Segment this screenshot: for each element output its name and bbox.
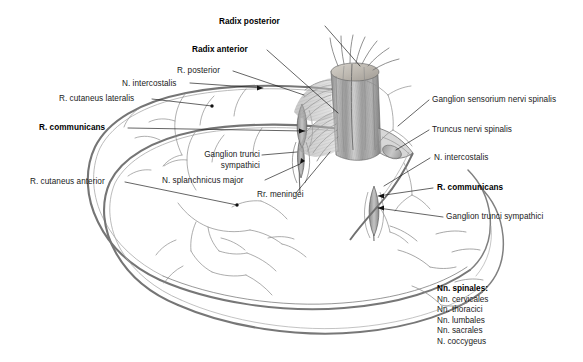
label-n-intercostalis-left: N. intercostalis <box>122 79 177 90</box>
label-ganglion-sensorium-nervi-spinalis: Ganglion sensorium nervi spinalis <box>432 95 556 106</box>
label-ganglion-trunci-sympathici-mid-line1: Ganglion trunci <box>204 150 260 159</box>
label-ganglion-trunci-sympathici-mid: Ganglion trunci sympathici <box>176 150 260 171</box>
label-rr-meningei: Rr. meningei <box>257 190 304 201</box>
legend-item-nn-thoracici: Nn. thoracici <box>437 305 488 315</box>
label-ganglion-trunci-sympathici-right: Ganglion trunci sympathici <box>446 212 543 223</box>
leader-lines <box>125 26 443 217</box>
label-r-posterior: R. posterior <box>177 66 220 77</box>
anterior-cutaneous-plexus <box>156 201 306 295</box>
anatomical-plate: Radix posterior Radix anterior R. poster… <box>0 0 583 362</box>
label-n-intercostalis-right: N. intercostalis <box>434 153 489 164</box>
label-radix-anterior: Radix anterior <box>192 45 248 56</box>
legend-title: Nn. spinales: <box>437 284 488 294</box>
label-radix-posterior: Radix posterior <box>219 17 280 28</box>
label-truncus-nervi-spinalis: Truncus nervi spinalis <box>432 125 512 136</box>
label-r-cutaneus-anterior: R. cutaneus anterior <box>30 177 105 188</box>
label-r-communicans-right: R. communicans <box>437 183 503 194</box>
ganglion-trunci-sympathici-right-shape <box>364 186 383 238</box>
spinal-cord-segment <box>331 63 381 160</box>
label-r-cutaneus-lateralis: R. cutaneus lateralis <box>59 94 134 105</box>
legend-item-nn-lumbales: Nn. lumbales <box>437 316 488 326</box>
legend-item-n-coccygeus: N. coccygeus <box>437 337 488 347</box>
legend-item-nn-cervicales: Nn. cervicales <box>437 295 488 305</box>
legend-item-nn-sacrales: Nn. sacrales <box>437 326 488 336</box>
label-r-communicans-left: R. communicans <box>39 123 105 134</box>
label-n-splanchnicus-major: N. splanchnicus major <box>162 176 244 187</box>
legend-nn-spinales: Nn. spinales: Nn. cervicales Nn. thoraci… <box>437 284 488 347</box>
label-ganglion-trunci-sympathici-mid-line2: sympathici <box>221 161 260 170</box>
